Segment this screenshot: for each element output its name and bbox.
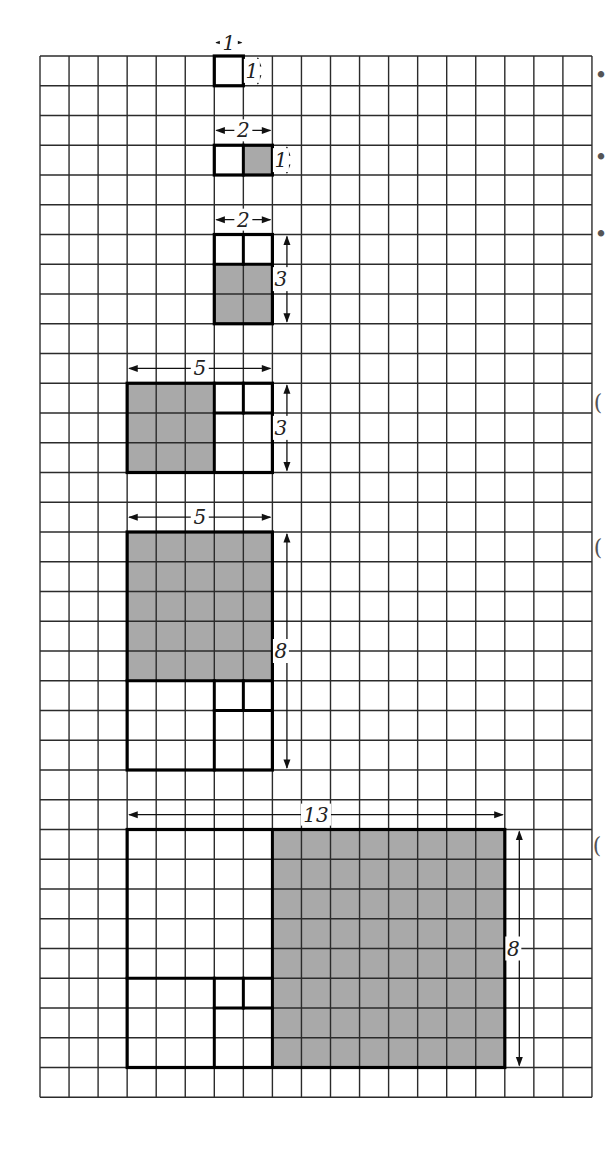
height-label: 3: [275, 267, 288, 291]
height-dimension: 1: [244, 57, 262, 85]
margin-mark: (: [593, 833, 602, 858]
margin-mark: (: [594, 535, 603, 560]
width-label: 5: [193, 505, 206, 529]
shaded-square: [243, 145, 272, 175]
height-label: 8: [507, 937, 520, 961]
width-label: 2: [236, 208, 250, 232]
height-label: 8: [275, 639, 288, 663]
margin-mark: •: [595, 63, 608, 88]
margin-mark: •: [595, 222, 608, 247]
height-dimension: 1: [273, 146, 291, 174]
height-label: 1: [275, 148, 288, 172]
width-label: 13: [303, 803, 328, 827]
fibonacci-rectangles-diagram: 1121235358138 •••(((: [0, 0, 609, 1150]
margin-mark: •: [595, 145, 608, 170]
shaded-square: [127, 532, 272, 681]
width-label: 2: [236, 118, 250, 142]
margin-mark: (: [594, 390, 603, 415]
height-label: 1: [246, 59, 259, 83]
shaded-square: [127, 383, 214, 472]
width-label: 1: [222, 31, 235, 55]
width-label: 5: [193, 356, 206, 380]
height-label: 3: [275, 416, 288, 440]
